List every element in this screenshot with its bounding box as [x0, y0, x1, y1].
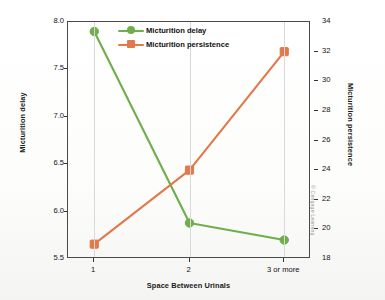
y-axis-right-tick-label: 28: [322, 105, 348, 114]
y-axis-left-tick-label: 5.5: [38, 253, 64, 262]
y-axis-left-tick-label: 6.0: [38, 206, 64, 215]
y-axis-right-tick-label: 18: [322, 253, 348, 262]
chart-legend: Micturition delay Micturition persistenc…: [118, 24, 229, 50]
y-axis-right-tick-mark: [314, 140, 318, 141]
y-axis-right-tick-label: 32: [322, 46, 348, 55]
y-axis-right-tick-label: 34: [322, 16, 348, 25]
legend-item-micturition-persistence: Micturition persistence: [118, 38, 229, 50]
y-axis-left-title: Micturition delay: [18, 83, 27, 163]
x-axis-tick-mark: [189, 258, 190, 262]
y-axis-right-tick-mark: [314, 51, 318, 52]
y-axis-right-tick-mark: [314, 110, 318, 111]
legend-marker-circle-icon: [118, 25, 144, 36]
grid-line: [284, 22, 285, 257]
y-axis-right-tick-label: 20: [322, 223, 348, 232]
y-axis-left: 8.07.57.06.56.05.5: [38, 0, 64, 300]
y-axis-left-tick-label: 8.0: [38, 16, 64, 25]
y-axis-right-title: Micturition persistence: [346, 70, 355, 180]
x-axis-tick-label: 1: [53, 265, 133, 274]
x-axis-tick-label: 2: [149, 265, 229, 274]
grid-line: [190, 22, 191, 257]
plot-area: [67, 21, 310, 258]
y-axis-left-tick-label: 7.5: [38, 63, 64, 72]
y-axis-right-tick-mark: [314, 80, 318, 81]
legend-label: Micturition persistence: [144, 40, 229, 49]
y-axis-right-tick-label: 24: [322, 164, 348, 173]
y-axis-right-tick-label: 22: [322, 194, 348, 203]
y-axis-left-tick-label: 6.5: [38, 158, 64, 167]
y-axis-right-tick-mark: [314, 169, 318, 170]
copyright-credit: © Cengage Learning: [310, 185, 316, 275]
x-axis-title: Space Between Urinals: [67, 281, 310, 290]
x-axis-tick-mark: [93, 258, 94, 262]
line-chart-figure: Micturition delay Micturition persistenc…: [0, 0, 385, 300]
y-axis-right: 343230282624222018: [314, 0, 340, 300]
y-axis-right-tick-label: 26: [322, 135, 348, 144]
legend-item-micturition-delay: Micturition delay: [118, 24, 229, 36]
figure-page: Micturition delay Micturition persistenc…: [0, 0, 385, 300]
x-axis-tick-mark: [283, 258, 284, 262]
grid-line: [94, 22, 95, 257]
legend-label: Micturition delay: [144, 26, 206, 35]
y-axis-right-tick-label: 30: [322, 75, 348, 84]
y-axis-left-tick-label: 7.0: [38, 111, 64, 120]
legend-marker-square-icon: [118, 39, 144, 50]
